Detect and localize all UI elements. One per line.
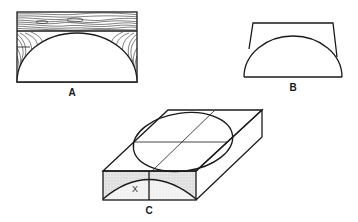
panel-b: B	[244, 23, 342, 93]
label-b: B	[289, 82, 296, 93]
semicircle-cutout	[17, 33, 137, 82]
panel-c: X C	[103, 106, 262, 216]
semicircle-arc	[244, 36, 342, 77]
ellipse-diagonal-axis	[152, 111, 214, 171]
wood-grain-top-band	[15, 13, 140, 30]
trapezoid-outline	[249, 23, 337, 57]
diagram-canvas: A B X C	[0, 0, 358, 222]
panel-a: A	[15, 12, 140, 98]
label-c: C	[145, 205, 152, 216]
right-face	[196, 110, 262, 200]
label-x: X	[132, 184, 138, 194]
label-a: A	[68, 87, 75, 98]
top-face	[103, 110, 262, 171]
